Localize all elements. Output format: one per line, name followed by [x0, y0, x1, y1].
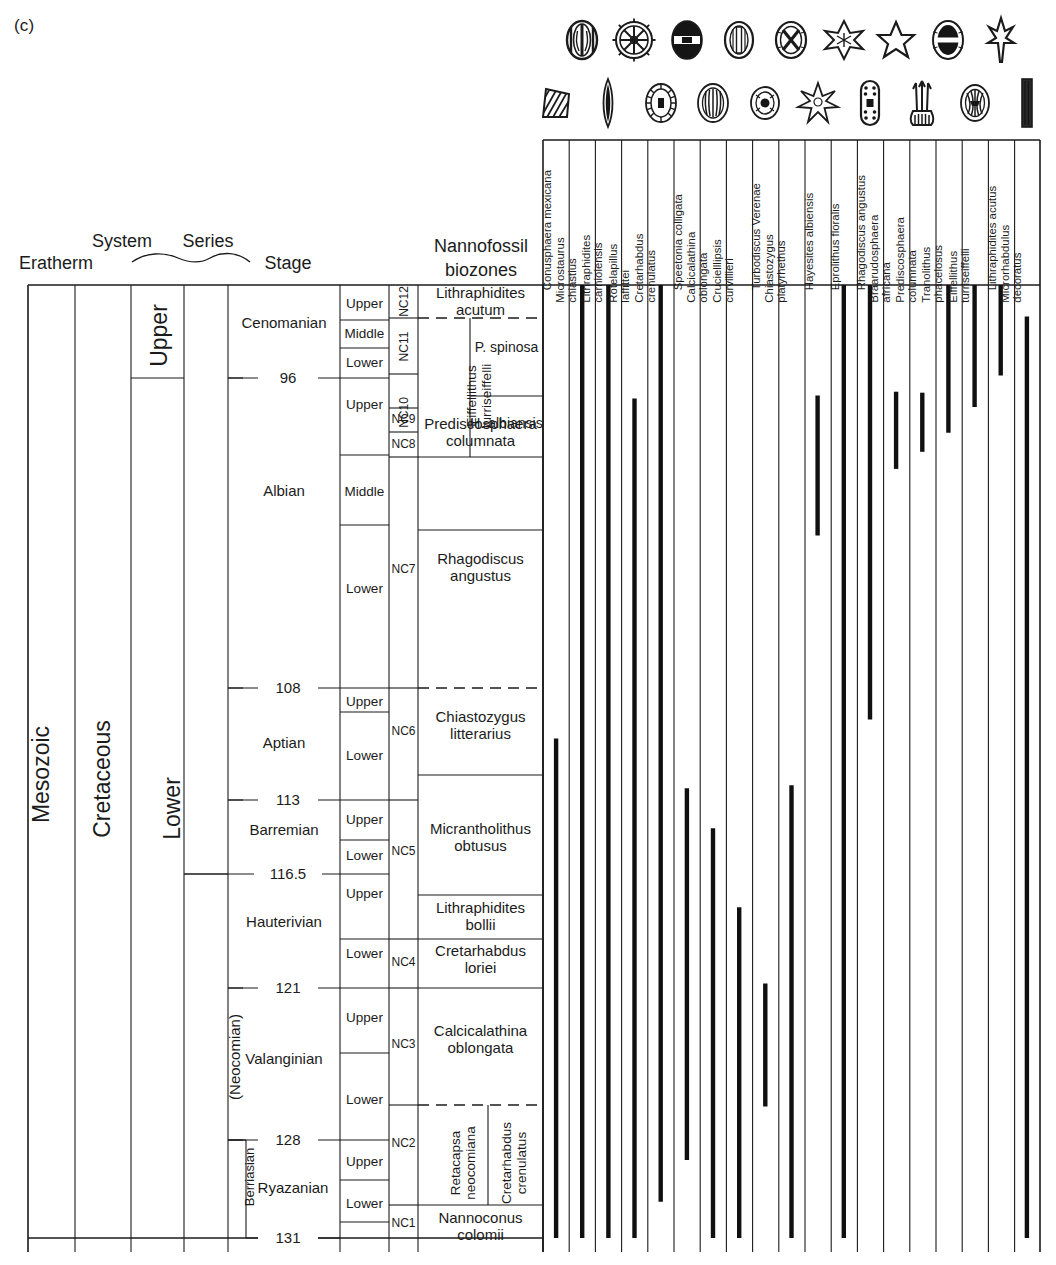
nannolith-hatched-wedge-icon: [534, 85, 580, 121]
nannolith-rosette-icon: [825, 21, 863, 59]
nannolith-solid-rod-icon: [1022, 79, 1032, 127]
taxon-name: Tranolithus phacelosus: [921, 245, 946, 303]
coccolith-oval-rim-icon: [646, 84, 676, 122]
range-bars: [556, 285, 1027, 1238]
taxon-name: Lithraphidites acutus: [985, 186, 997, 290]
coccolith-spotted-oval-icon: [751, 87, 779, 119]
coccolith-elliptical-bars-icon: [567, 21, 597, 59]
coccolith-dark-banded-icon: [672, 21, 702, 59]
taxon-icons: [534, 18, 1032, 127]
taxon-name: Microstaurus chiastius: [555, 237, 580, 302]
taxon-name: Rhagodiscus angustus: [855, 175, 867, 290]
taxon-name: Chiastozygus platyrhethus: [764, 234, 789, 302]
taxon-name: Rotelapillus laffittei: [607, 244, 632, 303]
taxon-name: Eprolithus floralis: [828, 204, 840, 291]
nannolith-spiked-rod-icon: [988, 18, 1014, 62]
taxon-name: Eiffellithus turriseiffelli: [947, 248, 972, 302]
figure-root: (c) .ln{stroke:#1b1b1b;fill:none;} .thin…: [0, 0, 1056, 1265]
taxon-name: Calcicalathina oblongata: [685, 232, 710, 303]
coccolith-wheel-spokes-icon: [613, 19, 656, 62]
nannolith-five-rayed-star-icon: [878, 22, 914, 57]
taxon-name: Turbodiscus Verenae: [750, 183, 762, 290]
taxon-name: Crucielllipsis curvillieri: [712, 239, 737, 302]
wavy-divider: [132, 253, 250, 262]
taxon-name: Cretarhabdus crenulatus: [633, 234, 658, 303]
taxon-name: Hayesites albiensis: [802, 193, 814, 291]
coccolith-arched-ribs-icon: [961, 85, 989, 121]
coccolith-ribbed-oval-icon: [698, 84, 728, 122]
taxon-name: Speetonia colligata: [672, 194, 684, 290]
strat-grid: [28, 285, 543, 1252]
chart-svg: .ln{stroke:#1b1b1b;fill:none;} .thin{str…: [0, 0, 1056, 1265]
taxon-name: Prediscosphaera columnata: [895, 217, 920, 302]
coccolith-dark-oval-icon: [933, 21, 963, 59]
nannolith-seven-rayed-star-icon: [798, 83, 838, 122]
coccolith-cross-centre-icon: [776, 22, 806, 58]
taxon-name: Lithraphidites carniolensis: [581, 235, 606, 303]
coccolith-dotted-rod-icon: [861, 81, 879, 125]
nannolith-lanceolate-icon: [604, 79, 613, 127]
nannolith-branched-icon: [911, 81, 934, 125]
taxon-name: Conusphaera mexicana: [541, 170, 553, 290]
coccolith-ringed-centre-icon: [725, 22, 753, 58]
taxon-name: Microrhabdulus decoratus: [999, 225, 1024, 303]
taxon-name: Braarudosphaera africana: [868, 215, 893, 303]
